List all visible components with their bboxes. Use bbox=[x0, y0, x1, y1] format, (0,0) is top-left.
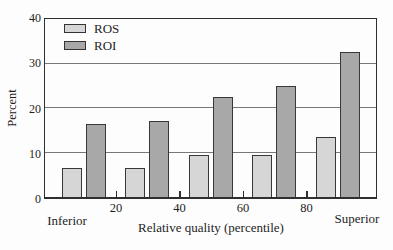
x-tick-label-60: 60 bbox=[237, 202, 250, 215]
y-axis-title: Percent bbox=[5, 89, 20, 126]
y-tick-label-0: 0 bbox=[35, 193, 41, 205]
x-axis-left-label: Inferior bbox=[47, 213, 87, 229]
bar-ros-group2 bbox=[125, 168, 145, 197]
x-tick-80 bbox=[306, 191, 308, 197]
gridline-20 bbox=[45, 107, 376, 108]
bar-roi-group5 bbox=[340, 52, 360, 197]
y-tick-label-30: 30 bbox=[29, 57, 41, 69]
legend-row-ros: ROS bbox=[64, 22, 119, 36]
bar-roi-group4 bbox=[276, 86, 296, 197]
legend-swatch-ros bbox=[64, 24, 86, 33]
bar-roi-group3 bbox=[213, 97, 233, 197]
x-axis-right-label: Superior bbox=[335, 211, 380, 227]
bar-ros-group3 bbox=[189, 155, 209, 197]
legend-label-roi: ROI bbox=[94, 39, 116, 53]
bar-ros-group4 bbox=[252, 155, 272, 197]
y-tick-label-20: 20 bbox=[29, 103, 41, 115]
x-tick-label-20: 20 bbox=[110, 202, 123, 215]
x-tick-20 bbox=[116, 191, 118, 197]
x-axis-labels: 20406080 bbox=[44, 202, 377, 216]
x-tick-40 bbox=[179, 191, 181, 197]
bar-ros-group5 bbox=[316, 137, 336, 197]
bar-roi-group1 bbox=[86, 124, 106, 197]
bar-ros-group1 bbox=[62, 168, 82, 197]
bar-roi-group2 bbox=[149, 121, 169, 197]
chart-figure: 010203040 Percent 20406080 Inferior Supe… bbox=[0, 0, 393, 250]
y-tick-label-40: 40 bbox=[29, 12, 41, 24]
x-tick-label-80: 80 bbox=[300, 202, 313, 215]
x-axis-title: Relative quality (percentile) bbox=[138, 220, 284, 236]
y-tick-label-10: 10 bbox=[29, 148, 41, 160]
legend-label-ros: ROS bbox=[94, 22, 119, 36]
legend-swatch-roi bbox=[64, 41, 86, 50]
legend: ROSROI bbox=[64, 22, 119, 55]
x-tick-label-40: 40 bbox=[173, 202, 186, 215]
gridline-30 bbox=[45, 63, 376, 64]
x-tick-60 bbox=[243, 191, 245, 197]
legend-row-roi: ROI bbox=[64, 39, 119, 53]
